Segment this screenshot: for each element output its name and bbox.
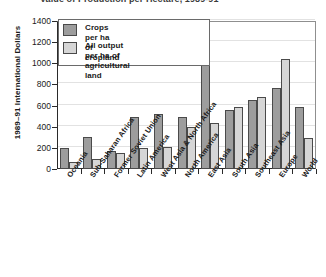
legend-label-all-output: All output per ha of agricultural land <box>85 41 130 81</box>
y-axis-tick-label: 1400 <box>32 16 51 26</box>
y-axis-tick-label: 600 <box>37 101 51 111</box>
y-axis-tick-label: 800 <box>37 79 51 89</box>
chart-title: Value of Production per Hectare, 1989-91 <box>40 0 219 4</box>
y-axis-tick-label: 400 <box>37 122 51 132</box>
chart-figure: Value of Production per Hectare, 1989-91… <box>0 0 326 277</box>
y-axis-tick-label: 0 <box>46 164 51 174</box>
legend-swatch-crops <box>63 24 77 36</box>
y-axis-tick-label: 1200 <box>32 37 51 47</box>
legend-swatch-all-output <box>63 42 77 54</box>
chart-legend: Crops per ha of cropland All output per … <box>58 19 210 66</box>
x-axis-labels: OceaniaSub-Saharan AfricaFormer Soviet U… <box>0 174 326 277</box>
bar <box>60 148 69 169</box>
y-axis-tick-label: 1000 <box>32 58 51 68</box>
y-axis: 0200400600800100012001400 <box>0 0 57 170</box>
bar-group <box>295 21 313 169</box>
y-axis-tick-label: 200 <box>37 143 51 153</box>
bar <box>281 59 290 169</box>
